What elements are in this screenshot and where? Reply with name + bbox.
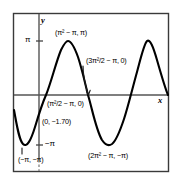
label-zero-descending: (3π²/2 − π, 0) [86,57,126,64]
label-zero-ascending: (π²/2 − π, 0) [47,100,84,107]
x-axis-label: x [158,96,162,105]
label-y-intercept: (0, −1.70) [42,118,71,125]
label-peak-first: (π² − π, π) [55,29,87,36]
y-tick-label-pi: π [25,36,30,44]
math-graph-figure: y x π −π (π² − π, π) (3π²/2 − π, 0) (π²/… [0,0,179,183]
plot-frame [14,14,169,172]
y-axis-label: y [41,16,45,25]
label-trough: (2π² − π, −π) [88,152,128,159]
label-local-min-left: (−π, −π) [18,156,44,163]
y-tick-label-negative-pi: −π [45,140,55,148]
